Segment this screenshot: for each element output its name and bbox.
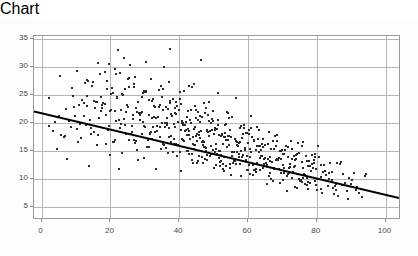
trend-line-layer [34,36,399,218]
plot-area [33,35,400,219]
x-tick-label-40: 40 [163,227,193,235]
x-tick-label-100: 100 [370,227,400,235]
x-tickmark-80 [316,219,317,222]
x-tick-label-60: 60 [232,227,262,235]
x-tickmark-100 [385,219,386,222]
x-tickmark-20 [109,219,110,222]
x-tickmark-60 [247,219,248,222]
y-tick-label-25: 25 [2,90,28,98]
x-tickmark-40 [178,219,179,222]
y-tick-label-20: 20 [2,118,28,126]
y-tick-label-5: 5 [2,202,28,210]
x-tick-label-0: 0 [26,227,56,235]
x-tickmark-0 [41,219,42,222]
y-tick-label-35: 35 [2,34,28,42]
x-tick-label-20: 20 [94,227,124,235]
y-tick-label-10: 10 [2,174,28,182]
x-tick-label-80: 80 [301,227,331,235]
y-tick-label-30: 30 [2,62,28,70]
trend-line [34,112,399,199]
scatter-plot-figure: 5101520253035 020406080100 [0,18,418,256]
y-tick-label-15: 15 [2,146,28,154]
